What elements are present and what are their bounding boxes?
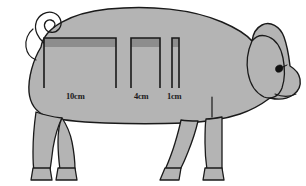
pig-hind-leg-front [58, 118, 75, 170]
pig-diagram-svg [0, 0, 306, 186]
pig-front-leg-front [205, 117, 222, 170]
pig-hoof-front-back [160, 168, 181, 180]
measurement-label-1cm: 1cm [167, 92, 182, 101]
diagram-canvas: 10cm 4cm 1cm [0, 0, 306, 186]
measurement-bracket-4cm-band [131, 38, 160, 47]
measurement-bracket-10cm-band [44, 38, 116, 47]
pig-hoof-rear-front [56, 168, 77, 180]
pig-front-leg-back [165, 120, 198, 170]
measurement-label-10cm: 10cm [66, 92, 85, 101]
pig-tail-base-path [26, 29, 36, 60]
pig-eye [276, 65, 284, 72]
measurement-bracket-1cm-band [172, 38, 179, 47]
measurement-label-4cm: 4cm [134, 92, 149, 101]
pig-hoof-front-front [203, 168, 224, 180]
pig-hoof-rear-back [31, 168, 52, 180]
